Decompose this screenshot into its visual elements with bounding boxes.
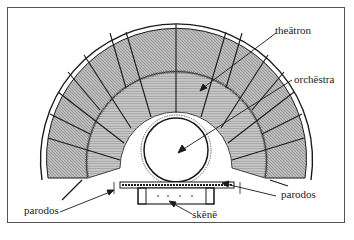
label-theatron: theātron — [275, 25, 311, 36]
label-parodos-left: parodos — [24, 205, 59, 216]
label-skene: skēnē — [192, 209, 217, 220]
orchestra-circle — [141, 115, 211, 185]
label-orchestra: orchēstra — [294, 74, 334, 85]
skene-building — [114, 182, 240, 204]
label-parodos-right: parodos — [281, 189, 316, 200]
